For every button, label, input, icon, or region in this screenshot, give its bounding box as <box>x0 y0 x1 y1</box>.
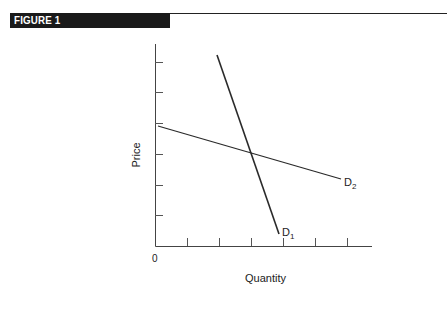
d2-label: D2 <box>344 176 357 191</box>
demand-curve-d1 <box>217 55 279 234</box>
demand-chart: D1 D2 0 Quantity Price <box>0 0 447 314</box>
y-ticks <box>155 63 163 216</box>
x-axis-label: Quantity <box>245 272 286 284</box>
origin-label: 0 <box>152 253 158 264</box>
x-ticks <box>188 238 348 246</box>
demand-curve-d2 <box>158 126 341 179</box>
axes <box>156 44 373 247</box>
y-axis-label: Price <box>130 142 142 167</box>
